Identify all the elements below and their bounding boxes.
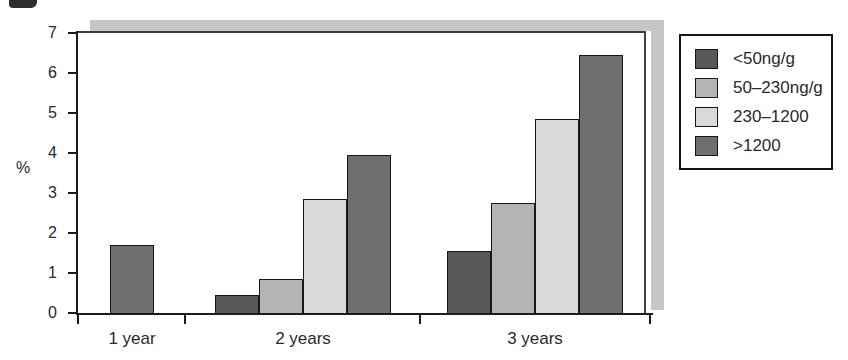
legend-item: <50ng/g xyxy=(695,49,831,69)
legend-item: >1200 xyxy=(695,136,831,156)
y-axis-tick-label: 6 xyxy=(17,64,57,81)
bar-3-years-series-3 xyxy=(535,119,579,313)
x-axis-category-label: 2 years xyxy=(258,329,348,349)
legend: <50ng/g50–230ng/g230–1200>1200 xyxy=(679,34,833,170)
y-axis-tick xyxy=(68,72,77,74)
bar-chart-figure: % 012345671 year2 years3 years <50ng/g50… xyxy=(0,0,848,360)
bar-2-years-series-2 xyxy=(259,279,303,313)
y-axis-tick-label: 4 xyxy=(17,144,57,161)
y-axis-tick xyxy=(68,272,77,274)
legend-swatch-icon xyxy=(695,78,718,98)
y-axis-tick xyxy=(68,232,77,234)
y-axis-tick xyxy=(68,32,77,34)
bar-3-years-series-2 xyxy=(491,203,535,313)
legend-swatch-icon xyxy=(695,136,718,156)
y-axis-tick xyxy=(68,192,77,194)
bar-2-years-series-3 xyxy=(303,199,347,313)
y-axis-tick-label: 0 xyxy=(17,304,57,321)
legend-item: 230–1200 xyxy=(695,107,831,127)
y-axis-tick xyxy=(68,112,77,114)
y-axis-tick xyxy=(68,312,77,314)
x-axis-category-label: 3 years xyxy=(490,329,580,349)
x-axis-tick xyxy=(419,313,421,324)
y-axis-tick-label: 3 xyxy=(17,184,57,201)
legend-label: 230–1200 xyxy=(733,107,809,127)
scan-artifact-mark xyxy=(9,0,37,8)
y-axis-tick-label: 2 xyxy=(17,224,57,241)
x-axis-tick xyxy=(184,313,186,324)
legend-label: <50ng/g xyxy=(733,49,795,69)
legend-item: 50–230ng/g xyxy=(695,78,831,98)
x-axis-tick xyxy=(649,313,651,324)
legend-swatch-icon xyxy=(695,107,718,127)
legend-label: 50–230ng/g xyxy=(733,78,823,98)
y-axis-unit-label: % xyxy=(16,159,30,177)
y-axis-tick-label: 5 xyxy=(17,104,57,121)
plot-shadow-top xyxy=(90,20,664,31)
x-axis-line xyxy=(76,313,653,315)
legend-swatch-icon xyxy=(695,49,718,69)
bar-3-years-series-1 xyxy=(447,251,491,313)
x-axis-tick xyxy=(77,313,79,324)
y-axis-tick-label: 1 xyxy=(17,264,57,281)
bar-3-years-series-4 xyxy=(579,55,623,313)
bar-1-year-series-4 xyxy=(110,245,154,313)
y-axis-tick xyxy=(68,152,77,154)
bar-2-years-series-1 xyxy=(215,295,259,313)
bar-2-years-series-4 xyxy=(347,155,391,313)
x-axis-category-label: 1 year xyxy=(87,329,177,349)
plot-shadow-right xyxy=(651,20,664,310)
legend-label: >1200 xyxy=(733,136,781,156)
y-axis-tick-label: 7 xyxy=(17,24,57,41)
